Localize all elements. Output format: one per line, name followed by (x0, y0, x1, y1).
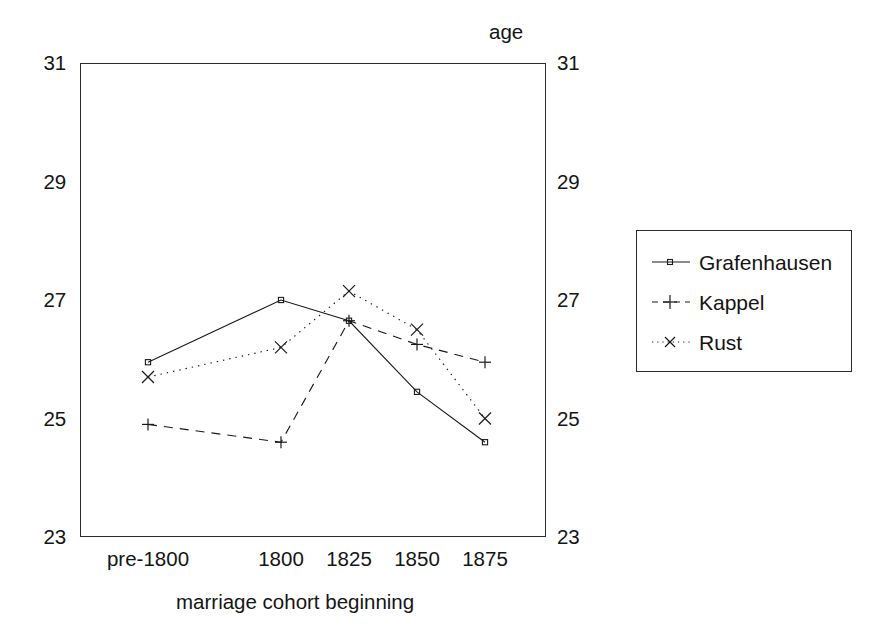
line-chart-figure: age 31 29 27 25 23 31 29 27 25 23 pre-18… (0, 0, 891, 644)
y-axis-title: age (489, 22, 523, 43)
y-tick-right-31: 31 (557, 53, 579, 74)
y-tick-left-27: 27 (44, 290, 66, 311)
dotted-line-cross-marker-icon (651, 331, 691, 353)
legend-item-grafenhausen[interactable]: Grafenhausen (651, 247, 832, 277)
y-tick-right-29: 29 (557, 172, 579, 193)
x-tick-1825: 1825 (326, 549, 372, 570)
series-plot-canvas (80, 63, 546, 537)
y-tick-left-23: 23 (44, 527, 66, 548)
x-tick-1875: 1875 (462, 549, 508, 570)
dashed-line-plus-marker-icon (651, 291, 691, 313)
solid-line-square-marker-icon (651, 251, 691, 273)
x-tick-1800: 1800 (258, 549, 304, 570)
x-tick-pre-1800: pre-1800 (107, 549, 189, 570)
y-tick-left-29: 29 (44, 172, 66, 193)
legend-label-kappel: Kappel (699, 292, 764, 313)
legend-label-rust: Rust (699, 332, 742, 353)
legend-item-kappel[interactable]: Kappel (651, 287, 764, 317)
y-tick-left-31: 31 (44, 53, 66, 74)
series-line-grafenhausen (148, 300, 485, 442)
series-grafenhausen (145, 297, 487, 444)
legend-item-rust[interactable]: Rust (651, 327, 742, 357)
y-tick-right-23: 23 (557, 527, 579, 548)
series-line-rust (148, 291, 485, 418)
legend-label-grafenhausen: Grafenhausen (699, 252, 832, 273)
y-tick-right-27: 27 (557, 290, 579, 311)
y-tick-right-25: 25 (557, 409, 579, 430)
y-tick-left-25: 25 (44, 409, 66, 430)
x-tick-1850: 1850 (394, 549, 440, 570)
x-axis-title: marriage cohort beginning (176, 592, 414, 613)
series-rust (142, 285, 491, 424)
legend: Grafenhausen Kappel Rust (636, 230, 852, 372)
series-kappel (142, 315, 491, 448)
